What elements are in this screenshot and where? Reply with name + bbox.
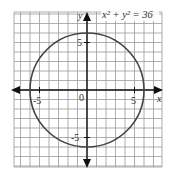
y-axis-label: y bbox=[77, 10, 83, 21]
circle-graph: x² + y² = 36 y x 0 5 -5 5 -5 bbox=[0, 0, 169, 178]
x-tick-label-5: 5 bbox=[131, 95, 136, 106]
origin-label: 0 bbox=[79, 92, 84, 103]
x-axis-label: x bbox=[156, 93, 162, 104]
y-tick-label-neg5: -5 bbox=[71, 132, 79, 143]
equation-label: x² + y² = 36 bbox=[101, 9, 154, 20]
axes bbox=[11, 12, 163, 168]
y-tick-label-5: 5 bbox=[77, 37, 82, 48]
x-tick-label-neg5: -5 bbox=[33, 95, 41, 106]
y-axis-up-arrow-icon bbox=[83, 12, 91, 21]
x-axis-left-arrow-icon bbox=[11, 86, 20, 94]
